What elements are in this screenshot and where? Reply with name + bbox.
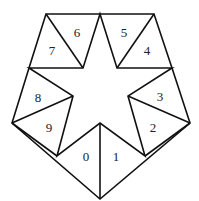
triangle-label-9: 9 [46,120,53,135]
triangle-label-7: 7 [49,43,56,58]
triangle-label-6: 6 [74,25,81,40]
triangle-label-3: 3 [157,89,164,104]
triangle-label-8: 8 [35,90,42,105]
edges [12,14,190,199]
triangle-label-5: 5 [121,25,128,40]
outer-boundary [12,14,190,199]
triangle-label-4: 4 [144,43,151,58]
triangle-label-0: 0 [83,149,90,164]
divider-4-5 [117,14,154,68]
labels: 0 1 2 3 4 5 6 7 8 9 [35,25,164,164]
triangle-label-2: 2 [150,120,157,135]
pentagon-star-diagram: 0 1 2 3 4 5 6 7 8 9 [0,0,199,201]
divider-6-7 [46,14,83,68]
divider-8-9 [12,96,73,123]
triangle-label-1: 1 [113,149,120,164]
